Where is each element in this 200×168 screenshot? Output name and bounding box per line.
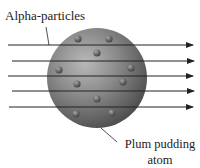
electron-dot [108, 109, 115, 116]
atom-sphere-body [47, 28, 147, 128]
electron-dot [105, 35, 112, 42]
atom-label-leader-line [101, 128, 117, 142]
electron-dot [55, 66, 62, 73]
atom-label-line1: Plum pudding [120, 136, 200, 152]
atom-label-line2: atom [120, 152, 200, 168]
electron-dot [93, 49, 100, 56]
electron-dot [73, 80, 80, 87]
alpha-label-leader-line [46, 27, 49, 45]
atom-sphere [47, 28, 147, 128]
plum-pudding-atom-label: Plum pudding atom [120, 136, 200, 168]
electron-dot [127, 64, 134, 71]
electron-dot [74, 35, 81, 42]
electron-dot [93, 95, 100, 102]
alpha-particles-label: Alpha-particles [5, 8, 85, 23]
electron-dot [72, 110, 79, 117]
electron-dot [119, 78, 126, 85]
